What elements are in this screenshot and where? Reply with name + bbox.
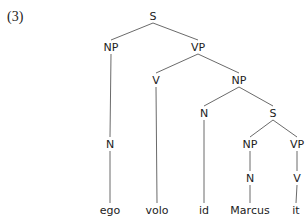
tree-edge (204, 87, 239, 106)
tree-leaf-word: id (199, 205, 209, 216)
tree-edge (250, 120, 273, 137)
tree-edges (0, 0, 307, 219)
tree-node-label: N (246, 173, 254, 184)
tree-edge (239, 87, 273, 106)
tree-node-label: V (293, 173, 301, 184)
tree-leaf-word: ego (100, 205, 120, 216)
tree-node-label: S (150, 11, 157, 22)
tree-leaf-word: Marcus (230, 205, 269, 216)
tree-edge (273, 120, 297, 137)
tree-node-label: VP (290, 139, 304, 150)
tree-node-label: S (270, 108, 277, 119)
tree-node-label: NP (243, 139, 258, 150)
tree-edge (296, 185, 297, 203)
tree-leaf-word: it (292, 205, 299, 216)
tree-node-label: N (106, 139, 114, 150)
tree-node-label: V (152, 75, 160, 86)
tree-node-label: N (200, 108, 208, 119)
tree-node-label: NP (232, 75, 247, 86)
tree-node-label: NP (104, 42, 119, 53)
tree-edge (153, 23, 198, 40)
tree-edge (156, 87, 157, 203)
syntax-tree-figure: (3) SNPVPVNPNNSNPVPNVegovoloidMarcusit (0, 0, 307, 219)
tree-edge (198, 54, 239, 73)
tree-edge (156, 54, 198, 73)
tree-leaf-word: volo (145, 205, 168, 216)
tree-node-label: VP (191, 42, 205, 53)
tree-edge (110, 54, 111, 137)
tree-edge (111, 23, 153, 40)
